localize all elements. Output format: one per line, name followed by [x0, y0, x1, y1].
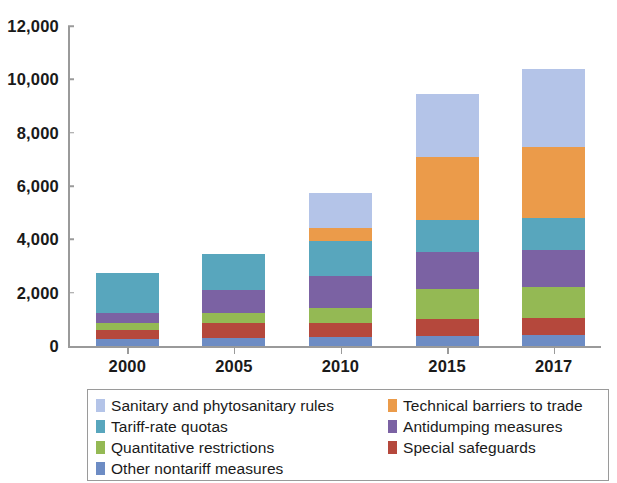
- bar-segment-2015-2: [416, 289, 479, 319]
- bar-segment-2005-0: [202, 338, 265, 346]
- legend-item-3[interactable]: Antidumping measures: [388, 418, 608, 436]
- legend-label: Antidumping measures: [403, 418, 563, 436]
- y-axis-tick-label: 10,000: [7, 70, 68, 89]
- bar-segment-2017-0: [522, 335, 585, 346]
- bar-2017: 2017: [522, 69, 585, 346]
- legend-label: Tariff-rate quotas: [111, 418, 228, 436]
- x-axis-tick-label: 2005: [215, 357, 253, 376]
- bar-segment-2017-6: [522, 69, 585, 147]
- legend-item-0[interactable]: Sanitary and phytosanitary rules: [96, 397, 388, 415]
- chart-figure: 02,0004,0006,0008,00010,00012,000 200020…: [0, 0, 617, 483]
- bar-segment-2015-4: [416, 220, 479, 251]
- bar-2005: 2005: [202, 254, 265, 346]
- bar-segment-2017-3: [522, 250, 585, 287]
- bar-segment-2005-3: [202, 290, 265, 313]
- y-axis-tick-mark: [68, 79, 74, 81]
- x-axis-tick-label: 2000: [109, 357, 147, 376]
- x-axis-tick-mark: [341, 348, 343, 354]
- y-axis-tick-mark: [68, 132, 74, 134]
- bar-segment-2010-3: [309, 276, 372, 308]
- legend-label: Other nontariff measures: [111, 460, 283, 478]
- legend-item-1[interactable]: Technical barriers to trade: [388, 397, 608, 415]
- legend-label: Special safeguards: [403, 439, 536, 457]
- bar-segment-2000-2: [96, 323, 159, 330]
- bar-segment-2000-4: [96, 273, 159, 313]
- legend-swatch-icon: [96, 462, 105, 475]
- bar-segment-2010-5: [309, 228, 372, 240]
- y-axis-tick-label: 8,000: [17, 123, 68, 142]
- chart-legend: Sanitary and phytosanitary rulesTechnica…: [87, 389, 609, 481]
- bar-segment-2010-1: [309, 323, 372, 337]
- y-axis-tick-label: 4,000: [17, 230, 68, 249]
- bar-segment-2010-4: [309, 241, 372, 276]
- bar-2000: 2000: [96, 273, 159, 346]
- bar-segment-2000-0: [96, 339, 159, 346]
- bar-segment-2005-4: [202, 254, 265, 290]
- x-axis-tick-label: 2010: [322, 357, 360, 376]
- x-axis-tick-label: 2015: [428, 357, 466, 376]
- bar-2015: 2015: [416, 94, 479, 346]
- bar-segment-2017-2: [522, 287, 585, 318]
- x-axis-tick-mark: [234, 348, 236, 354]
- legend-swatch-icon: [96, 420, 105, 433]
- y-axis-tick-mark: [68, 292, 74, 294]
- legend-grid: Sanitary and phytosanitary rulesTechnica…: [96, 395, 608, 479]
- y-axis-tick-label: 6,000: [17, 177, 68, 196]
- bar-segment-2017-1: [522, 318, 585, 335]
- y-axis-line: [68, 26, 70, 348]
- legend-item-2[interactable]: Tariff-rate quotas: [96, 418, 388, 436]
- x-axis-tick-mark: [554, 348, 556, 354]
- x-axis-tick-mark: [127, 348, 129, 354]
- y-axis-tick-label: 2,000: [17, 283, 68, 302]
- y-axis-tick-mark: [68, 25, 74, 27]
- bar-segment-2017-4: [522, 218, 585, 249]
- x-axis-tick-mark: [447, 348, 449, 354]
- y-axis-tick-mark: [68, 185, 74, 187]
- bar-segment-2015-0: [416, 336, 479, 346]
- legend-label: Technical barriers to trade: [403, 397, 583, 415]
- legend-item-6[interactable]: Other nontariff measures: [96, 460, 388, 478]
- bar-segment-2000-3: [96, 313, 159, 323]
- bar-segment-2010-0: [309, 337, 372, 346]
- y-axis-tick-label: 12,000: [7, 17, 68, 36]
- bar-segment-2005-2: [202, 313, 265, 323]
- legend-item-5[interactable]: Special safeguards: [388, 439, 608, 457]
- x-axis-tick-label: 2017: [535, 357, 573, 376]
- bar-segment-2017-5: [522, 147, 585, 218]
- legend-swatch-icon: [96, 399, 105, 412]
- bar-segment-2010-2: [309, 308, 372, 323]
- plot-area: 02,0004,0006,0008,00010,00012,000 200020…: [68, 26, 601, 348]
- legend-item-4[interactable]: Quantitative restrictions: [96, 439, 388, 457]
- bar-segment-2000-1: [96, 330, 159, 339]
- legend-swatch-icon: [388, 399, 397, 412]
- bar-segment-2015-6: [416, 94, 479, 157]
- bar-segment-2015-5: [416, 157, 479, 220]
- bar-segment-2015-3: [416, 252, 479, 289]
- legend-swatch-icon: [388, 441, 397, 454]
- bar-segment-2015-1: [416, 319, 479, 336]
- bar-segment-2010-6: [309, 193, 372, 229]
- y-axis-tick-mark: [68, 239, 74, 241]
- legend-swatch-icon: [96, 441, 105, 454]
- legend-label: Quantitative restrictions: [111, 439, 274, 457]
- legend-label: Sanitary and phytosanitary rules: [111, 397, 334, 415]
- bar-2010: 2010: [309, 193, 372, 346]
- y-axis-tick-label: 0: [50, 337, 68, 356]
- bar-segment-2005-1: [202, 323, 265, 338]
- x-axis-line: [68, 346, 601, 348]
- legend-swatch-icon: [388, 420, 397, 433]
